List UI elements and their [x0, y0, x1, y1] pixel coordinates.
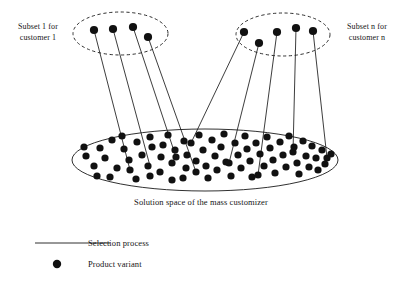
label-subset-n-line1: Subset n for: [336, 22, 398, 33]
product-variant-dot: [204, 174, 211, 181]
selection-process-line: [113, 29, 150, 166]
product-variant-dot: [211, 152, 218, 159]
product-variant-dot: [312, 154, 319, 161]
label-subset-n: Subset n for customer n: [336, 22, 398, 43]
product-variant-dot: [148, 143, 155, 150]
subset-left-ellipse: [73, 12, 168, 55]
product-variant-dot: [187, 139, 194, 146]
product-variant-dot: [269, 156, 276, 163]
product-variant-dot: [182, 164, 189, 171]
product-variant-dot: [234, 151, 241, 158]
product-variant-dot: [132, 175, 139, 182]
product-variant-dot: [146, 133, 153, 140]
product-variant-dot: [241, 132, 248, 139]
diagram-figure: Subset 1 for customer 1 Subset n for cus…: [0, 0, 402, 284]
product-variant-dot: [260, 162, 267, 169]
product-variant-dot: [192, 168, 199, 175]
product-variant-dot: [172, 153, 179, 160]
product-variant-dot: [314, 166, 321, 173]
subset-product-variant-dot: [292, 24, 300, 32]
product-variant-dot: [305, 163, 312, 170]
subset-product-variant-dot: [273, 28, 281, 36]
product-variant-dot: [225, 159, 232, 166]
subset-product-variant-dot: [109, 25, 117, 33]
product-variant-dot: [321, 160, 328, 167]
product-variant-dot: [146, 172, 153, 179]
product-variant-dot: [192, 157, 199, 164]
product-variant-dot: [133, 138, 140, 145]
product-variant-dot: [93, 172, 100, 179]
product-variant-dot: [263, 133, 270, 140]
subset-product-variant-dot: [90, 26, 98, 34]
solution-space-caption: Solution space of the mass customizer: [0, 197, 402, 208]
product-variant-dot: [96, 144, 103, 151]
product-variant-dot: [279, 151, 286, 158]
product-variant-dot: [195, 131, 202, 138]
product-variant-dot: [227, 172, 234, 179]
product-variant-dot: [290, 143, 297, 150]
subset-product-variant-dot: [309, 27, 317, 35]
product-variant-dot: [180, 137, 187, 144]
subset-product-variant-dot: [144, 33, 152, 41]
product-variant-dot: [318, 146, 325, 153]
product-variant-dot: [125, 156, 132, 163]
subset-right-dots: [240, 24, 317, 47]
product-variant-dot: [113, 164, 120, 171]
product-variant-dot: [302, 152, 309, 159]
product-variant-dot: [308, 142, 315, 149]
subset-product-variant-dot: [255, 39, 263, 47]
product-variant-dot: [220, 130, 227, 137]
product-variant-dot: [231, 139, 238, 146]
legend-product-variant-dot: [53, 260, 61, 268]
product-variant-dot: [285, 132, 292, 139]
label-subset-1: Subset 1 for customer 1: [7, 22, 69, 43]
selection-process-line: [293, 28, 296, 152]
product-variant-dot: [82, 152, 89, 159]
product-variant-dot: [254, 171, 261, 178]
subset-left-dots: [90, 23, 152, 41]
product-variant-dot: [271, 169, 278, 176]
product-variant-dot: [179, 174, 186, 181]
product-variant-dot: [282, 163, 289, 170]
product-variant-dot: [138, 151, 145, 158]
product-variant-dot: [118, 132, 125, 139]
solution-space-dots: [80, 130, 334, 183]
product-variant-dot: [101, 154, 108, 161]
product-variant-dot: [256, 150, 263, 157]
product-variant-dot: [202, 162, 209, 169]
product-variant-dot: [106, 173, 113, 180]
product-variant-dot: [293, 159, 300, 166]
product-variant-dot: [120, 145, 127, 152]
product-variant-dot: [276, 138, 283, 145]
selection-process-line: [313, 31, 327, 158]
product-variant-dot: [144, 162, 151, 169]
product-variant-dot: [156, 168, 163, 175]
product-variant-dot: [299, 137, 306, 144]
product-variant-dot: [327, 150, 334, 157]
product-variant-dot: [157, 153, 164, 160]
product-variant-dot: [168, 159, 175, 166]
product-variant-dot: [126, 166, 133, 173]
product-variant-dot: [171, 146, 178, 153]
product-variant-dot: [295, 170, 302, 177]
product-variant-dot: [217, 143, 224, 150]
subset-product-variant-dot: [129, 23, 137, 31]
product-variant-dot: [237, 164, 244, 171]
product-variant-dot: [168, 176, 175, 183]
product-variant-dot: [213, 166, 220, 173]
product-variant-dot: [80, 143, 87, 150]
subset-right-ellipse: [236, 13, 330, 56]
product-variant-dot: [108, 136, 115, 143]
label-subset-n-line2: customer n: [336, 33, 398, 44]
product-variant-dot: [164, 131, 171, 138]
legend-selection-process-label: Selection process: [88, 238, 149, 249]
label-subset-1-line2: customer 1: [7, 33, 69, 44]
product-variant-dot: [266, 144, 273, 151]
subset-product-variant-dot: [240, 28, 248, 36]
product-variant-dot: [246, 157, 253, 164]
product-variant-dot: [208, 136, 215, 143]
product-variant-dot: [252, 139, 259, 146]
legend-product-variant-label: Product variant: [88, 259, 142, 270]
label-subset-1-line1: Subset 1 for: [7, 22, 69, 33]
product-variant-dot: [159, 141, 166, 148]
